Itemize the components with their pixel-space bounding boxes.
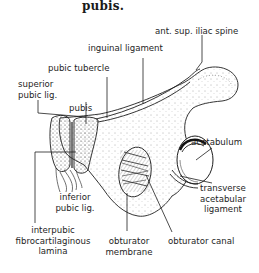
label-line: transverse xyxy=(193,183,253,194)
label-line: pubic lig. xyxy=(18,90,57,101)
label-line: pubic lig. xyxy=(50,203,100,214)
label-line: interpubic xyxy=(10,225,96,236)
label-line: fibrocartilaginous xyxy=(10,236,96,247)
label-line: superior xyxy=(18,79,57,90)
label-pubis: pubis xyxy=(69,103,92,114)
left-pubis-body xyxy=(50,115,70,171)
label-inferior-pubic-lig: inferior pubic lig. xyxy=(50,192,100,213)
label-transverse-acetabular-ligament: transverse acetabular ligament xyxy=(193,183,253,215)
label-pubic-tubercle: pubic tubercle xyxy=(48,63,110,74)
label-ant-sup-iliac-spine: ant. sup. iliac spine xyxy=(155,26,238,37)
label-line: acetabular xyxy=(193,194,253,205)
label-superior-pubic-lig: superior pubic lig. xyxy=(18,79,57,100)
label-line: ligament xyxy=(193,204,253,215)
label-inguinal-ligament: inguinal ligament xyxy=(88,43,163,54)
label-interpubic-fibrocartilaginous-lamina: interpubic fibrocartilaginous lamina xyxy=(10,225,96,257)
label-line: membrane xyxy=(104,247,154,258)
label-line: inferior xyxy=(50,192,100,203)
label-obturator-membrane: obturator membrane xyxy=(104,236,154,257)
anatomy-figure: pubis. xyxy=(0,0,259,273)
label-acetabulum: acetabulum xyxy=(191,137,242,148)
label-obturator-canal: obturator canal xyxy=(168,236,234,247)
label-line: obturator xyxy=(104,236,154,247)
label-line: lamina xyxy=(10,246,96,257)
